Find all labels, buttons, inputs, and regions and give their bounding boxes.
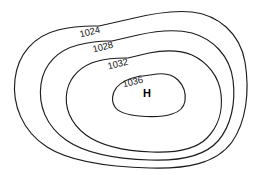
contour-line-group: [14, 11, 247, 168]
contour-label-1028: 1028: [91, 39, 114, 55]
contour-line-1028: [40, 31, 233, 160]
contour-line-1024: [14, 11, 247, 168]
contour-map-canvas: 1024 1028 1032 1036 H: [0, 0, 256, 175]
high-pressure-center-label: H: [143, 87, 151, 99]
contour-label-1032: 1032: [106, 56, 129, 72]
contour-label-1036: 1036: [121, 74, 144, 90]
contour-map-figure: 1024 1028 1032 1036 H: [0, 0, 256, 175]
contour-line-1032: [66, 51, 221, 152]
